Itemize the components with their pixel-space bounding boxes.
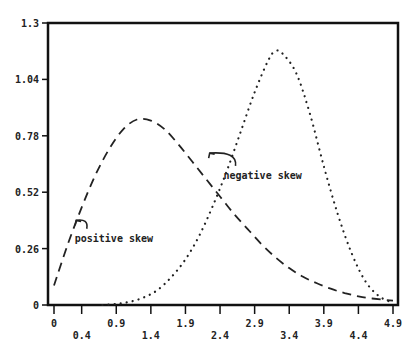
arrowhead-icon bbox=[75, 220, 81, 225]
annotation-label: positive skew bbox=[75, 233, 154, 244]
y-tick-label: 0.26 bbox=[15, 244, 39, 255]
x-tick-label: 0.9 bbox=[107, 318, 125, 329]
annotation-label: negative skew bbox=[224, 170, 303, 181]
x-tick-label: 4.4 bbox=[349, 330, 367, 341]
arrowhead-icon bbox=[209, 153, 215, 158]
x-tick-label: 1.9 bbox=[176, 318, 194, 329]
x-tick-label: 1.4 bbox=[142, 330, 160, 341]
plot-frame bbox=[48, 23, 398, 305]
annotations-group: positive skewnegative skew bbox=[75, 153, 303, 244]
x-tick-label: 0 bbox=[51, 318, 57, 329]
x-tick-label: 3.9 bbox=[315, 318, 333, 329]
y-tick-label: 1.3 bbox=[21, 18, 39, 29]
positive-skew-curve bbox=[54, 119, 393, 301]
x-tick-label: 3.4 bbox=[280, 330, 298, 341]
y-tick-label: 1.04 bbox=[15, 74, 39, 85]
x-tick-label: 2.4 bbox=[211, 330, 229, 341]
skewness-chart: 00.260.520.781.041.3 00.91.92.93.94.90.4… bbox=[0, 0, 415, 354]
y-axis: 00.260.520.781.041.3 bbox=[15, 18, 48, 311]
y-tick-label: 0.52 bbox=[15, 187, 39, 198]
x-tick-label: 4.9 bbox=[384, 318, 402, 329]
x-tick-label: 2.9 bbox=[246, 318, 264, 329]
x-tick-label: 0.4 bbox=[73, 330, 91, 341]
x-axis: 00.91.92.93.94.90.41.42.43.44.4 bbox=[51, 305, 402, 341]
y-tick-label: 0 bbox=[33, 300, 39, 311]
y-tick-label: 0.78 bbox=[15, 131, 39, 142]
